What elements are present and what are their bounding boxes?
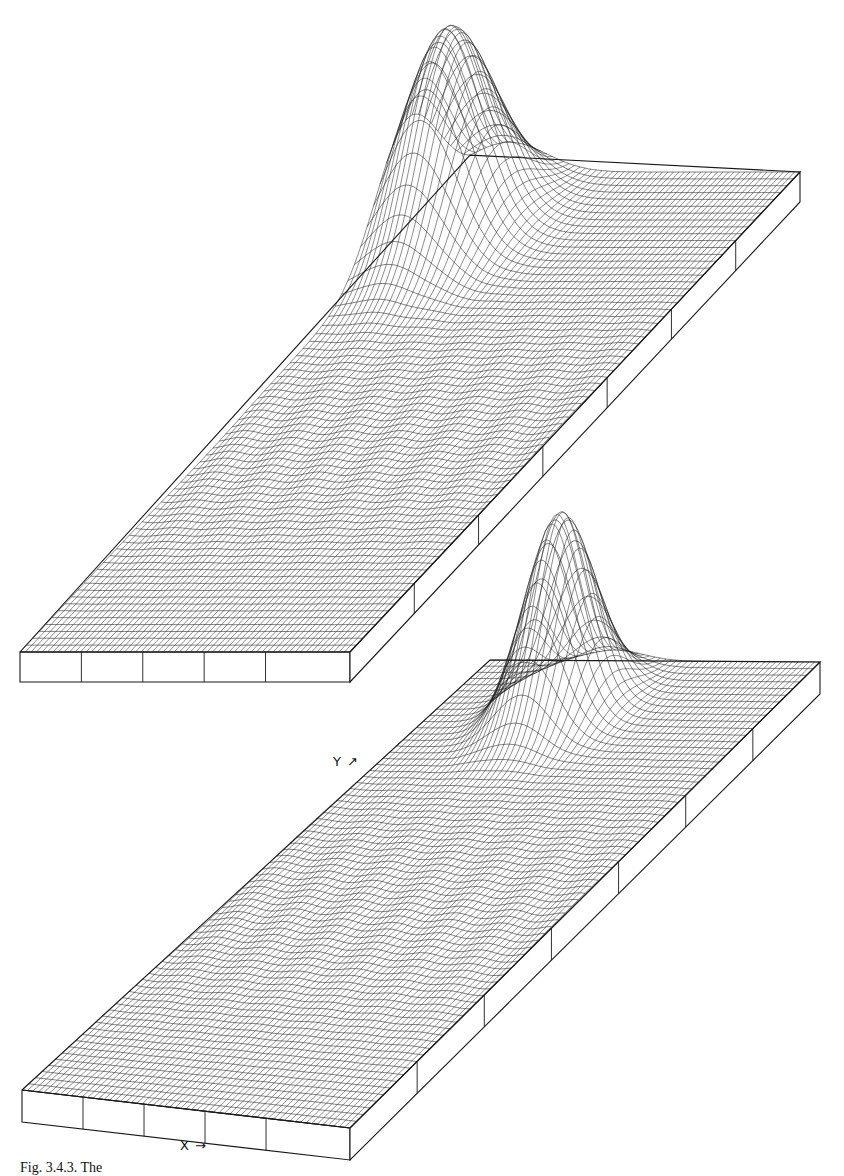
x-arrow-icon: → bbox=[190, 1138, 207, 1153]
y-label-text: Y bbox=[333, 754, 342, 769]
slab-side-face bbox=[350, 662, 820, 1160]
y-axis-label: Y ↗ bbox=[333, 754, 359, 769]
figure-caption: Fig. 3.4.3. The bbox=[20, 1160, 102, 1176]
x-label-text: X bbox=[180, 1138, 190, 1153]
slab-front-face bbox=[20, 652, 350, 682]
y-arrow-icon: ↗ bbox=[342, 754, 359, 769]
slab-side-face bbox=[350, 172, 800, 682]
surface-panel-lower bbox=[22, 512, 820, 1160]
x-axis-label: X → bbox=[180, 1138, 207, 1153]
surface-panel-upper bbox=[20, 25, 800, 682]
